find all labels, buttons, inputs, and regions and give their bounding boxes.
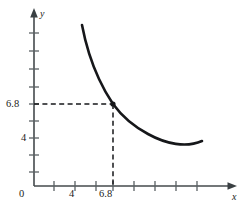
origin-label: 0: [19, 189, 24, 200]
y-axis-arrow-icon: [30, 8, 38, 18]
graph-figure: 6.8 4 0 4 6.8 y x: [0, 0, 246, 214]
intersection-point-marker: [110, 101, 115, 106]
plot-canvas: [0, 0, 246, 214]
y-axis-label-6-8: 6.8: [6, 99, 19, 110]
x-axis-name: x: [232, 192, 236, 202]
x-axis-label-6-8: 6.8: [99, 189, 112, 200]
decreasing-curve: [82, 25, 202, 145]
x-axis-label-4: 4: [69, 189, 74, 200]
y-axis-name: y: [40, 9, 44, 19]
x-axis-arrow-icon: [228, 182, 238, 190]
y-axis-label-4: 4: [21, 133, 26, 144]
